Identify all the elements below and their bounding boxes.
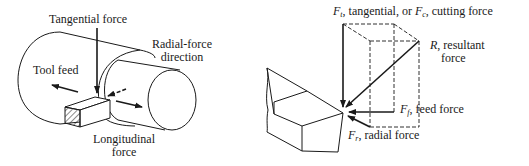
ft-text: , tangential, or: [343, 4, 415, 18]
fc-text: , cutting force: [426, 4, 493, 18]
ff-text: , feed force: [410, 102, 464, 116]
tool-feed-label: Tool feed: [33, 64, 78, 77]
tangential-cutting-force-label: Ft, tangential, or Fc, cutting force: [333, 5, 493, 21]
longitudinal-force-arrow: [116, 101, 142, 107]
longitudinal-label-line2: force: [88, 146, 160, 159]
r-text-line1: , resultant: [437, 38, 484, 52]
feed-force-label: Ff, feed force: [400, 103, 464, 119]
tangential-force-label: Tangential force: [49, 13, 127, 26]
fr-text: , radial force: [358, 128, 419, 142]
resultant-force-vector: [346, 41, 419, 107]
tool-feed-arrow: [52, 85, 78, 92]
cutting-tool-left: [65, 97, 110, 127]
radial-force-direction-label: Radial-force direction: [146, 38, 218, 64]
radial-force-label: Fr, radial force: [348, 129, 419, 145]
radial-force-vector: [348, 116, 370, 127]
cutting-tool-right: [267, 68, 343, 152]
resultant-force-label: R, resultant force: [430, 39, 485, 65]
radial-force-label-line2: direction: [146, 51, 218, 64]
radial-force-arrow: [108, 89, 126, 96]
longitudinal-force-label: Longitudinal force: [88, 133, 160, 159]
r-text-line2: force: [430, 52, 485, 65]
